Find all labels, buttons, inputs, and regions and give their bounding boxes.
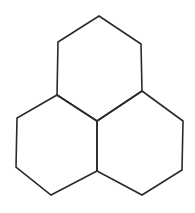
- fused-hexagons-diagram: Three fused hexagons: [0, 0, 195, 213]
- hexagon-left: [16, 95, 97, 195]
- hexagon-top: [57, 16, 142, 121]
- hexagon-right: [97, 91, 183, 195]
